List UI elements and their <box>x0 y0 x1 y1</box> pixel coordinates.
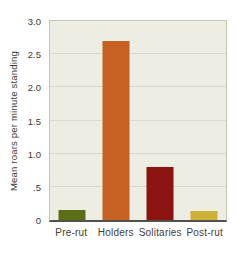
y-tick-label: 2.0 <box>28 82 41 93</box>
bar-slot-solitaries <box>138 21 182 220</box>
y-tick-label: 2.5 <box>28 49 41 60</box>
bar-slot-post-rut <box>182 21 226 220</box>
x-category-label: Post-rut <box>183 227 228 238</box>
y-tick-label: 1.5 <box>28 115 41 126</box>
y-axis-ticks: 0.51.01.52.02.53.0 <box>0 21 45 220</box>
bar-solitaries <box>147 167 174 220</box>
y-tick-label: 3.0 <box>28 16 41 27</box>
x-category-label: Pre-rut <box>49 227 94 238</box>
bars-row <box>50 21 226 220</box>
plot-area <box>49 20 227 222</box>
bar-chart: Mean roars per minute standing 0.51.01.5… <box>0 0 236 253</box>
x-category-label: Solitaries <box>138 227 183 238</box>
x-category-label: Holders <box>94 227 139 238</box>
y-tick-label: 0 <box>36 215 41 226</box>
bar-pre-rut <box>59 210 86 220</box>
x-axis-labels: Pre-rutHoldersSolitariesPost-rut <box>49 227 227 238</box>
bar-slot-pre-rut <box>50 21 94 220</box>
bar-slot-holders <box>94 21 138 220</box>
y-tick-label: .5 <box>33 181 41 192</box>
bar-holders <box>103 41 130 220</box>
y-tick-label: 1.0 <box>28 148 41 159</box>
bar-post-rut <box>191 211 218 220</box>
